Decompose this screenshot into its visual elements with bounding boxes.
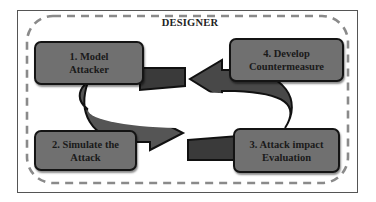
- step-develop-countermeasure: 4. Develop Countermeasure: [229, 38, 344, 82]
- step-label-line: 1. Model: [69, 50, 109, 63]
- step-label-line: 4. Develop: [249, 47, 324, 60]
- step-attack-impact-evaluation: 3. Attack impact Evaluation: [233, 128, 340, 173]
- step-label-line: Countermeasure: [249, 60, 324, 73]
- arrow-tail-evaluation: [188, 136, 238, 160]
- step-label-line: Evaluation: [250, 151, 324, 164]
- step-label-line: Attacker: [69, 63, 109, 76]
- arrow-tail-model: [140, 68, 185, 90]
- step-label-line: Attack: [52, 151, 119, 164]
- designer-title: DESIGNER: [150, 17, 230, 28]
- step-label-line: 3. Attack impact: [250, 138, 324, 151]
- step-simulate-attack: 2. Simulate the Attack: [34, 130, 137, 171]
- step-label-line: 2. Simulate the: [52, 138, 119, 151]
- step-model-attacker: 1. Model Attacker: [34, 41, 144, 85]
- cycle-center: [88, 92, 284, 128]
